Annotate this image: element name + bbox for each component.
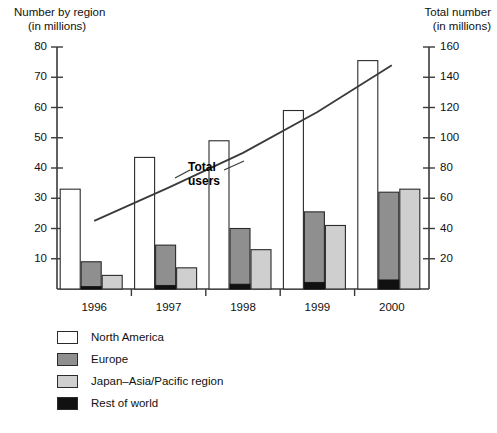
left-tick-label-30: 30	[21, 192, 47, 204]
left-tick-label-40: 40	[21, 162, 47, 174]
x-axis-label-1998: 1998	[213, 301, 273, 313]
right-tick-label-100: 100	[440, 132, 470, 144]
right-tick-label-60: 60	[440, 192, 470, 204]
bar-north-america-1996	[60, 189, 80, 289]
left-tick-label-80: 80	[21, 41, 47, 53]
right-tick-label-80: 80	[440, 162, 470, 174]
bar-europe-2000	[379, 192, 399, 289]
bar-japan-asia-pacific-1997	[177, 268, 197, 289]
bar-rest-of-world-2000	[379, 280, 399, 289]
x-axis-ticks	[131, 289, 354, 296]
bar-japan-asia-pacific-1998	[251, 250, 271, 289]
x-axis-label-2000: 2000	[362, 301, 422, 313]
left-tick-label-20: 20	[21, 223, 47, 235]
legend-item-2: Japan–Asia/Pacific region	[57, 370, 387, 392]
bar-europe-1996	[81, 262, 101, 289]
bar-japan-asia-pacific-1999	[325, 225, 345, 289]
left-tick-label-60: 60	[21, 102, 47, 114]
bar-japan-asia-pacific-2000	[400, 189, 420, 289]
black-swatch	[57, 397, 78, 410]
bar-rest-of-world-1999	[304, 282, 324, 289]
total-users-annotation: Totalusers	[188, 160, 220, 188]
bar-groups	[60, 61, 420, 289]
bar-rest-of-world-1997	[156, 285, 176, 289]
chart-legend: North AmericaEuropeJapan–Asia/Pacific re…	[57, 326, 387, 414]
x-axis-label-1996: 1996	[64, 301, 124, 313]
legend-item-1: Europe	[57, 348, 387, 370]
legend-label-1: Europe	[91, 353, 128, 366]
legend-item-0: North America	[57, 326, 387, 348]
legend-label-2: Japan–Asia/Pacific region	[91, 375, 223, 388]
left-tick-label-10: 10	[21, 253, 47, 265]
bar-rest-of-world-1998	[230, 284, 250, 289]
dark-gray-swatch	[57, 353, 78, 366]
x-axis-label-1997: 1997	[139, 301, 199, 313]
right-tick-label-140: 140	[440, 71, 470, 83]
light-gray-swatch	[57, 375, 78, 388]
right-tick-label-40: 40	[440, 223, 470, 235]
right-tick-label-160: 160	[440, 41, 470, 53]
left-tick-label-70: 70	[21, 71, 47, 83]
left-tick-label-50: 50	[21, 132, 47, 144]
bar-japan-asia-pacific-1996	[102, 275, 122, 289]
total-users-line1: Total	[188, 160, 216, 174]
x-axis-label-1999: 1999	[287, 301, 347, 313]
white-swatch	[57, 331, 78, 344]
bar-europe-1998	[230, 229, 250, 290]
legend-label-0: North America	[91, 331, 164, 344]
bar-north-america-2000	[358, 61, 378, 289]
bar-europe-1999	[304, 212, 324, 289]
bar-rest-of-world-1996	[81, 287, 101, 289]
legend-item-3: Rest of world	[57, 392, 387, 414]
chart-figure: Number by region(in millions) Total numb…	[0, 0, 497, 433]
total-users-line2: users	[188, 174, 220, 188]
legend-label-3: Rest of world	[91, 397, 158, 410]
bar-north-america-1999	[283, 111, 303, 289]
right-tick-label-120: 120	[440, 102, 470, 114]
bar-europe-1997	[156, 245, 176, 289]
figure-caption	[0, 424, 497, 433]
right-tick-label-20: 20	[440, 253, 470, 265]
bar-north-america-1997	[135, 157, 155, 289]
